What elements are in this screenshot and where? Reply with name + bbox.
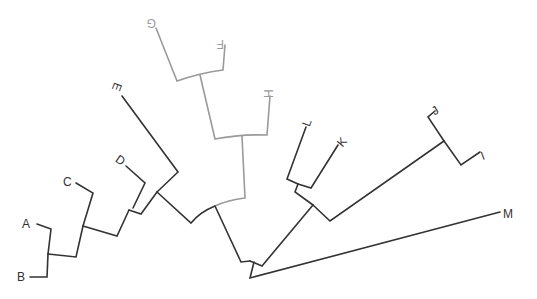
taxon-label-l: L <box>299 117 315 128</box>
branch-ABCD <box>129 192 157 214</box>
taxon-label-f: F <box>217 37 224 51</box>
branch-left-clade <box>215 206 250 262</box>
taxon-label-j: J <box>429 103 441 118</box>
taxon-label-g: G <box>147 16 156 30</box>
tree-branches <box>30 28 500 278</box>
taxon-label-a: A <box>22 217 30 231</box>
branch-root <box>250 212 500 278</box>
taxon-label-e: E <box>109 81 125 93</box>
taxon-label-c: C <box>63 175 72 189</box>
phylogenetic-tree: ABCDEGFHLKJIM <box>0 0 537 299</box>
taxon-label-i: I <box>479 149 487 163</box>
branch-leaf-G <box>156 28 225 81</box>
branch-leaf-D <box>126 166 145 208</box>
branch-leaf-L <box>287 127 306 184</box>
branch-ABCDE <box>157 192 215 223</box>
tree-labels: ABCDEGFHLKJIM <box>17 16 513 284</box>
branch-AB <box>48 226 83 257</box>
branch-leaf-A <box>37 224 51 254</box>
branch-leaf-C <box>76 183 93 226</box>
taxon-label-m: M <box>503 207 513 221</box>
branch-leaf-I <box>444 141 480 165</box>
branch-leaf-B <box>30 254 48 277</box>
branch-leaf-K <box>298 145 338 188</box>
branch-right-clade <box>250 205 313 266</box>
branch-ABC <box>83 210 129 236</box>
taxon-label-h: H <box>262 89 276 98</box>
branch-FGH <box>215 136 245 206</box>
branch-FG <box>200 75 270 139</box>
taxon-label-b: B <box>17 270 25 284</box>
branch-leaf-E <box>122 96 178 192</box>
